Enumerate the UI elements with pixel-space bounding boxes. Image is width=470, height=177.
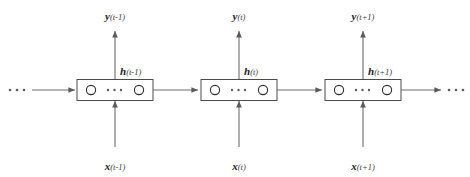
output-label-t: y(t) xyxy=(233,7,246,23)
hidden-label-t-minus-1: h(t-1) xyxy=(120,62,141,78)
timestep-cell-t xyxy=(201,31,277,147)
output-label-t-plus-1: y(t+1) xyxy=(352,7,375,23)
input-index-t-plus-1: (t+1) xyxy=(357,162,375,172)
input-index-t: (t) xyxy=(238,162,246,172)
cell-unit-last-t-plus-1 xyxy=(382,85,391,94)
input-index-t-minus-1: (t-1) xyxy=(110,162,125,172)
output-label-t-minus-1: y(t-1) xyxy=(105,7,125,23)
hidden-index-t-plus-1: (t+1) xyxy=(374,67,392,77)
timestep-cell-t-minus-1 xyxy=(77,31,153,147)
input-label-t-minus-1: x(t-1) xyxy=(105,157,126,173)
input-label-t-plus-1: x(t+1) xyxy=(351,157,375,173)
output-index-t: (t) xyxy=(237,12,245,22)
left-ellipsis-icon xyxy=(9,89,26,92)
output-index-t-minus-1: (t-1) xyxy=(110,12,125,22)
cell-unit-first-t-minus-1 xyxy=(86,85,95,94)
diagram-canvas xyxy=(0,0,470,177)
timestep-cell-t-plus-1 xyxy=(325,31,401,147)
right-ellipsis-icon xyxy=(448,89,465,92)
hidden-label-t: h(t) xyxy=(244,62,258,78)
cell-unit-last-t-minus-1 xyxy=(134,85,143,94)
cell-unit-first-t-plus-1 xyxy=(334,85,343,94)
hidden-index-t: (t) xyxy=(250,67,258,77)
cell-unit-first-t xyxy=(210,85,219,94)
cell-unit-last-t xyxy=(258,85,267,94)
input-label-t: x(t) xyxy=(232,157,246,173)
rnn-unrolled-diagram: y(t-1) y(t) y(t+1) h(t-1) h(t) h(t+1) x(… xyxy=(0,0,470,177)
output-index-t-plus-1: (t+1) xyxy=(356,12,374,22)
hidden-label-t-plus-1: h(t+1) xyxy=(368,62,392,78)
hidden-index-t-minus-1: (t-1) xyxy=(126,67,141,77)
